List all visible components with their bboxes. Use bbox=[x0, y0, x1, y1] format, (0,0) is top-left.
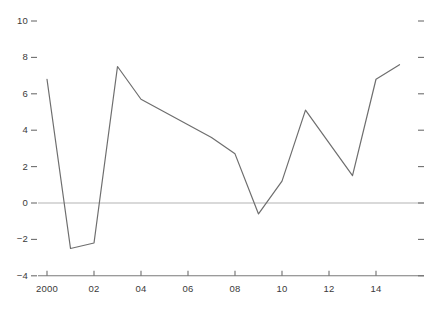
y-axis-tick-label: 6 bbox=[0, 88, 28, 99]
x-axis-tick-label: 14 bbox=[354, 283, 398, 294]
x-axis-tick-label: 02 bbox=[72, 283, 116, 294]
line-chart-plot bbox=[0, 0, 445, 312]
y-axis-tick-label: −2 bbox=[0, 233, 28, 244]
chart-container: 2000020406081012141086420−2−4 bbox=[0, 0, 445, 312]
x-axis-tick-label: 04 bbox=[119, 283, 163, 294]
y-axis-tick-label: 8 bbox=[0, 51, 28, 62]
y-axis-tick-label: 10 bbox=[0, 15, 28, 26]
y-axis-tick-label: 2 bbox=[0, 161, 28, 172]
x-axis-tick-label: 10 bbox=[260, 283, 304, 294]
x-axis-tick-label: 2000 bbox=[25, 283, 69, 294]
data-series-line bbox=[47, 65, 400, 249]
x-axis-tick-label: 06 bbox=[166, 283, 210, 294]
y-axis-tick-label: 0 bbox=[0, 197, 28, 208]
y-axis-tick-label: −4 bbox=[0, 270, 28, 281]
x-axis-tick-label: 12 bbox=[307, 283, 351, 294]
x-axis-tick-label: 08 bbox=[213, 283, 257, 294]
y-axis-tick-label: 4 bbox=[0, 124, 28, 135]
